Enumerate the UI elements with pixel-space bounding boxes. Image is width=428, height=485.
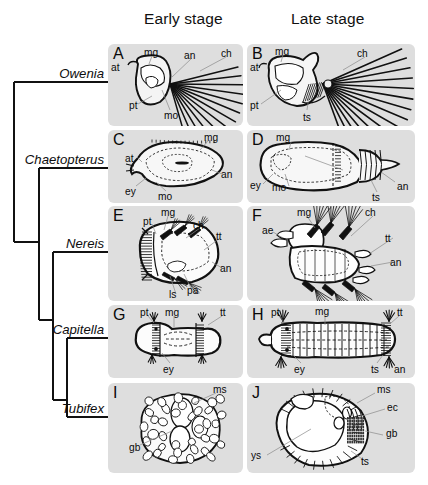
- panel-letter-f: F: [252, 207, 262, 225]
- annotation-mg: mg: [275, 47, 289, 57]
- annotation-mg: mg: [204, 133, 218, 143]
- panel-b: Bmgchatptts: [247, 44, 415, 126]
- annotation-ec: ec: [387, 403, 398, 413]
- annotation-mg: mg: [297, 208, 311, 218]
- annotation-ch: ch: [365, 208, 376, 218]
- panel-letter-i: I: [113, 384, 117, 402]
- annotation-ae: ae: [262, 226, 273, 236]
- taxon-label-tubifex: Tubifex: [0, 401, 104, 416]
- panel-letter-a: A: [113, 45, 124, 63]
- annotation-mo: mo: [158, 192, 172, 202]
- panel-h: Hptmgtteytsan: [247, 305, 415, 378]
- annotation-gb: gb: [129, 443, 140, 453]
- annotation-ys: ys: [251, 451, 261, 461]
- annotation-mg: mg: [161, 208, 175, 218]
- annotation-ch: ch: [221, 49, 232, 59]
- panel-d: Dmgeymoants: [247, 130, 415, 203]
- annotation-ey: ey: [163, 365, 174, 375]
- annotation-mg: mg: [165, 308, 179, 318]
- annotation-ls: ls: [169, 290, 176, 300]
- panel-letter-e: E: [113, 207, 124, 225]
- panel-e: Emgptchttanlspa: [108, 206, 243, 301]
- column-header-early-stage: Early stage: [144, 10, 223, 28]
- annotation-mo: mo: [164, 111, 178, 121]
- annotation-tt: tt: [216, 232, 222, 242]
- taxon-label-owenia: Owenia: [0, 66, 104, 81]
- panel-letter-c: C: [113, 131, 125, 149]
- panel-letter-g: G: [113, 306, 125, 324]
- annotation-ch: ch: [193, 221, 204, 231]
- annotation-pt: pt: [140, 308, 149, 318]
- annotation-tt: tt: [385, 234, 391, 244]
- panel-i: Imsgb: [108, 383, 243, 473]
- annotation-pt: pt: [129, 101, 138, 111]
- annotation-mg: mg: [276, 133, 290, 143]
- annotation-pt: pt: [271, 308, 280, 318]
- column-header-late-stage: Late stage: [291, 10, 364, 28]
- panel-g: Gptmgttey: [108, 305, 243, 378]
- taxon-label-chaetopterus: Chaetopterus: [0, 152, 104, 167]
- annotation-at: at: [111, 63, 120, 73]
- panel-letter-j: J: [252, 384, 260, 402]
- taxon-label-capitella: Capitella: [0, 322, 104, 337]
- annotation-tt: tt: [397, 308, 403, 318]
- annotation-ts: ts: [371, 365, 379, 375]
- annotation-pt: pt: [143, 217, 152, 227]
- annotation-an: an: [390, 258, 401, 268]
- annotation-at: at: [250, 63, 259, 73]
- annotation-an: an: [397, 182, 408, 192]
- annotation-pa: pa: [187, 286, 198, 296]
- panel-letter-d: D: [252, 131, 264, 149]
- annotation-ey: ey: [294, 365, 305, 375]
- taxon-label-nereis: Nereis: [0, 236, 104, 251]
- annotation-an: an: [394, 365, 405, 375]
- annotation-mg: mg: [144, 48, 158, 58]
- annotation-pt: pt: [250, 101, 259, 111]
- panel-j: Jmsecgbysts: [247, 383, 415, 473]
- annotation-an: an: [184, 51, 195, 61]
- panel-letter-b: B: [252, 45, 263, 63]
- annotation-ey: ey: [125, 187, 136, 197]
- annotation-ts: ts: [303, 113, 311, 123]
- annotation-ms: ms: [213, 385, 227, 395]
- panel-letter-h: H: [252, 306, 264, 324]
- annotation-ts: ts: [372, 193, 380, 203]
- annotation-ts: ts: [361, 457, 369, 467]
- annotation-mg: mg: [315, 307, 329, 317]
- annotation-ch: ch: [357, 49, 368, 59]
- panel-a: Amganchatptmo: [108, 44, 243, 126]
- annotation-at: at: [125, 154, 134, 164]
- annotation-tt: tt: [220, 308, 226, 318]
- annotation-ms: ms: [377, 385, 391, 395]
- panel-c: Cmgataneymo: [108, 130, 243, 203]
- annotation-an: an: [220, 264, 231, 274]
- panel-f: Fmgchaettan: [247, 206, 415, 301]
- annelid-development-figure: Early stage Late stage OweniaChaetopteru…: [0, 0, 428, 485]
- annotation-gb: gb: [386, 429, 397, 439]
- annotation-ey: ey: [250, 181, 261, 191]
- annotation-mo: mo: [272, 183, 286, 193]
- annotation-an: an: [221, 170, 232, 180]
